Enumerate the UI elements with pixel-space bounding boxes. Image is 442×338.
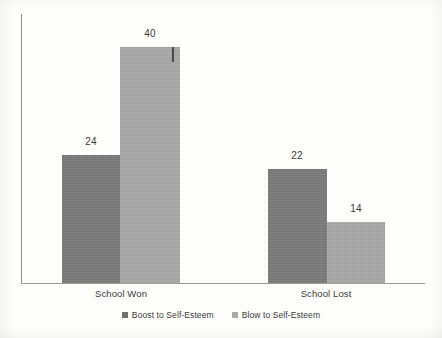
legend-item-blow[interactable]: Blow to Self-Esteem bbox=[232, 310, 320, 320]
legend-label-boost: Boost to Self-Esteem bbox=[132, 310, 214, 320]
bar-value-school-won-boost: 24 bbox=[71, 136, 111, 147]
bar-school-lost-blow[interactable] bbox=[327, 222, 385, 283]
x-tick-label-school-won: School Won bbox=[61, 288, 181, 299]
bar-chart: 24 40 22 14 School Won School Lost Boost… bbox=[0, 0, 442, 338]
chart-legend: Boost to Self-Esteem Blow to Self-Esteem bbox=[0, 310, 442, 320]
legend-label-blow: Blow to Self-Esteem bbox=[242, 310, 320, 320]
scan-artifact-tick bbox=[172, 47, 174, 62]
legend-swatch-icon-boost bbox=[122, 312, 128, 318]
x-axis-line bbox=[21, 283, 425, 284]
bar-school-lost-boost[interactable] bbox=[268, 169, 327, 283]
plot-area: 24 40 22 14 School Won School Lost Boost… bbox=[0, 0, 442, 338]
bar-value-school-lost-blow: 14 bbox=[336, 203, 376, 214]
x-tick-label-school-lost: School Lost bbox=[266, 288, 386, 299]
bar-school-won-boost[interactable] bbox=[62, 155, 120, 283]
bar-value-school-won-blow: 40 bbox=[130, 28, 170, 39]
bar-school-won-blow[interactable] bbox=[120, 47, 180, 283]
bar-value-school-lost-boost: 22 bbox=[277, 150, 317, 161]
y-axis-line bbox=[21, 14, 22, 283]
legend-swatch-icon-blow bbox=[232, 312, 238, 318]
legend-item-boost[interactable]: Boost to Self-Esteem bbox=[122, 310, 214, 320]
